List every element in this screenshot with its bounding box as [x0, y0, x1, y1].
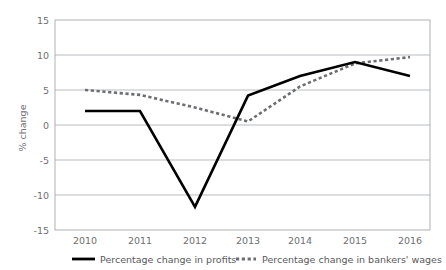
chart-container: % change 15 10 5 0 -5 -10 -15 2010: [0, 0, 446, 270]
y-tick-label: -15: [33, 225, 49, 236]
x-tick-label: 2010: [73, 235, 97, 246]
chart-legend: Percentage change in profits Percentage …: [72, 254, 442, 265]
y-axis-title: % change: [17, 104, 28, 151]
x-tick-label: 2011: [128, 235, 152, 246]
x-tick-label: 2014: [288, 235, 312, 246]
x-tick-label: 2013: [236, 235, 260, 246]
y-tick-label: -5: [40, 155, 49, 166]
legend-label-bankers-wages: Percentage change in bankers' wages: [262, 254, 442, 265]
y-tick-label: 0: [43, 120, 49, 131]
x-tick-label: 2012: [183, 235, 207, 246]
y-tick-label: 15: [37, 15, 49, 26]
x-tick-label: 2015: [343, 235, 367, 246]
y-tick-label: 10: [37, 50, 49, 61]
y-tick-label: -10: [33, 190, 49, 201]
series-line-profits: [85, 62, 410, 207]
x-axis-tick-labels: 2010 2011 2012 2013 2014 2015 2016: [73, 235, 422, 246]
gridlines: [55, 55, 430, 195]
y-axis-tick-labels: 15 10 5 0 -5 -10 -15: [33, 15, 49, 236]
line-chart: % change 15 10 5 0 -5 -10 -15 2010: [0, 0, 446, 270]
y-tick-label: 5: [43, 85, 49, 96]
x-tick-label: 2016: [398, 235, 422, 246]
legend-label-profits: Percentage change in profits: [100, 254, 236, 265]
